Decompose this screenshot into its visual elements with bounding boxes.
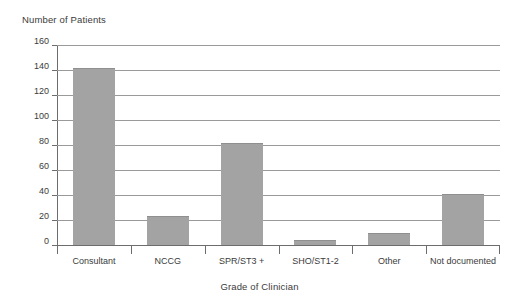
- bar-chart-figure: Number of Patients 020406080100120140160…: [0, 0, 519, 302]
- x-axis-tick-mark: [205, 246, 206, 254]
- y-axis-tick-mark: [52, 95, 57, 96]
- y-axis-tick-label: 0: [44, 241, 49, 242]
- y-axis-tick-label: 120: [34, 91, 49, 92]
- gridline: [57, 45, 500, 46]
- bar-other: [368, 233, 410, 246]
- x-axis-category-label: Other: [352, 256, 426, 267]
- gridline: [57, 170, 500, 171]
- y-axis-tick-mark: [52, 195, 57, 196]
- y-axis-title: Number of Patients: [22, 14, 106, 25]
- x-axis-tick-mark: [279, 246, 280, 254]
- y-axis-tick-mark: [52, 220, 57, 221]
- bar-nccg: [147, 216, 189, 245]
- bar-not-documented: [442, 194, 484, 245]
- x-axis-category-label: SHO/ST1-2: [279, 256, 353, 267]
- x-axis-tick-mark: [131, 246, 132, 254]
- y-axis-tick-mark: [52, 45, 57, 46]
- x-axis-category-label: SPR/ST3 +: [205, 256, 279, 267]
- y-axis-tick-label: 100: [34, 116, 49, 117]
- x-axis-category-label: NCCG: [131, 256, 205, 267]
- bar-spr-st3: [221, 143, 263, 246]
- x-axis-tick-mark: [499, 246, 500, 254]
- bar-consultant: [73, 68, 115, 246]
- x-axis-category-label: Consultant: [57, 256, 131, 267]
- y-axis-tick-mark: [52, 70, 57, 71]
- y-axis-tick-label: 140: [34, 66, 49, 67]
- x-axis-tick-mark: [57, 246, 58, 254]
- x-axis-tick-mark: [352, 246, 353, 254]
- gridline: [57, 145, 500, 146]
- x-axis-tick-mark: [426, 246, 427, 254]
- y-axis-tick-mark: [52, 120, 57, 121]
- y-axis-tick-mark: [52, 145, 57, 146]
- gridline: [57, 195, 500, 196]
- y-axis-tick-label: 60: [39, 166, 49, 167]
- plot-area: 020406080100120140160: [57, 45, 500, 245]
- y-axis-tick-mark: [52, 170, 57, 171]
- y-axis-tick-label: 40: [39, 191, 49, 192]
- gridline: [57, 220, 500, 221]
- x-axis-category-label: Not documented: [426, 256, 500, 267]
- x-axis-title: Grade of Clinician: [0, 281, 519, 292]
- y-axis-tick-label: 20: [39, 216, 49, 217]
- y-axis-tick-label: 80: [39, 141, 49, 142]
- gridline: [57, 70, 500, 71]
- gridline: [57, 120, 500, 121]
- gridline: [57, 95, 500, 96]
- y-axis-tick-label: 160: [34, 41, 49, 42]
